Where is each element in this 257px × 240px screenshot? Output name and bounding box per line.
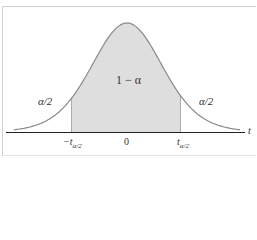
axis-variable-label: t (248, 126, 251, 136)
tick-right-critical: tα/2 (177, 137, 189, 150)
tick-left-main: −t (63, 136, 73, 147)
left-tail-label: α/2 (38, 96, 52, 107)
center-area-label: 1 − α (116, 74, 141, 86)
right-tail-label: α/2 (199, 96, 213, 107)
tick-left-sub: α/2 (73, 142, 82, 150)
tick-right-sub: α/2 (180, 142, 189, 150)
tick-left-critical: −tα/2 (63, 137, 82, 150)
tick-zero: 0 (124, 137, 129, 147)
